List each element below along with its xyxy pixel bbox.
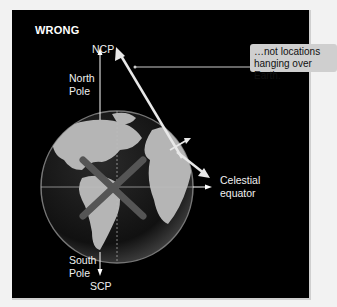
south-pole-label: South Pole (69, 254, 96, 280)
ncp-label: NCP (92, 43, 114, 56)
north-pole-label: North Pole (69, 72, 95, 98)
celestial-equator-label: Celestial equator (220, 174, 260, 200)
celestial-equator-arrow-icon (193, 185, 212, 190)
diagram-title: WRONG (35, 24, 79, 36)
north-pole-arrow-icon (98, 48, 103, 120)
scp-label: SCP (90, 280, 112, 293)
callout-connector-icon (134, 66, 252, 69)
callout-box: …not locations hanging over Earth. (250, 44, 337, 72)
